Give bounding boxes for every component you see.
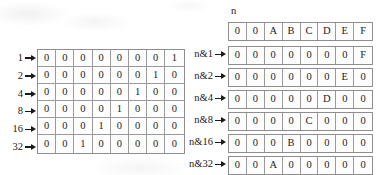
table-cell: 0: [247, 47, 265, 64]
table-cell: 0: [129, 101, 147, 118]
left-row-label-4: 4: [0, 86, 36, 103]
table-cell: D: [318, 91, 336, 108]
table-cell: 0: [229, 157, 247, 174]
table-cell: 0: [336, 157, 354, 174]
table-cell: 0: [265, 135, 283, 152]
table-cell: D: [318, 23, 336, 40]
n-variable-label: n: [231, 6, 236, 17]
table-cell: 0: [229, 69, 247, 86]
table-cell: 0: [147, 118, 165, 135]
table-cell: 0: [336, 135, 354, 152]
table-cell: 0: [354, 157, 372, 174]
table-cell: 0: [229, 47, 247, 64]
table-cell: 0: [265, 47, 283, 64]
result-row-n-and-16: 0 0 0 B 0 0 0 0: [228, 134, 373, 153]
table-cell: 0: [165, 101, 183, 118]
table-cell: 0: [265, 91, 283, 108]
table-cell: 0: [38, 50, 56, 67]
table-cell: 0: [56, 84, 74, 101]
table-cell: F: [354, 23, 372, 40]
table-cell: 1: [147, 67, 165, 84]
table-cell: 0: [247, 157, 265, 174]
table-cell: 0: [247, 69, 265, 86]
n-value-row: 0 0 A B C D E F: [228, 22, 373, 41]
table-cell: 1: [129, 84, 147, 101]
left-row-label-32: 32: [0, 139, 36, 156]
right-row-label-text: n&32: [189, 159, 213, 170]
result-row-n-and-32: 0 0 A 0 0 0 0 0: [228, 156, 373, 175]
table-row: 0 0 0 0 0 0 1 0: [38, 67, 184, 84]
table-cell: 0: [129, 50, 147, 67]
table-cell: 0: [318, 157, 336, 174]
table-cell: 0: [318, 135, 336, 152]
table-cell: 0: [301, 69, 319, 86]
table-cell: 0: [93, 67, 111, 84]
table-cell: 0: [129, 118, 147, 135]
result-row-n-and-8: 0 0 0 0 C 0 0 0: [228, 112, 373, 131]
right-row-label-text: n&4: [194, 93, 213, 104]
table-cell: 0: [74, 101, 92, 118]
table-cell: 0: [229, 113, 247, 130]
table-cell: 0: [165, 84, 183, 101]
table-cell: 0: [301, 135, 319, 152]
left-row-label-8: 8: [0, 103, 36, 120]
table-cell: 0: [38, 135, 56, 152]
table-cell: 1: [74, 135, 92, 152]
right-row-label-text: n&16: [189, 137, 213, 148]
table-cell: 0: [283, 69, 301, 86]
table-cell: F: [354, 47, 372, 64]
table-cell: 0: [74, 50, 92, 67]
table-cell: 0: [56, 67, 74, 84]
right-row-label-text: n&2: [194, 71, 213, 82]
table-cell: 0: [38, 118, 56, 135]
right-row-label-n-and-2: n&2: [186, 68, 226, 85]
table-cell: B: [283, 135, 301, 152]
left-row-label-2: 2: [0, 68, 36, 85]
table-row: 0 0 0 0 0 1 0 0: [38, 84, 184, 101]
table-cell: 0: [283, 157, 301, 174]
table-cell: 0: [74, 118, 92, 135]
table-cell: B: [283, 23, 301, 40]
left-row-label-text: 8: [18, 106, 23, 117]
left-row-label-16: 16: [0, 121, 36, 138]
table-cell: 0: [247, 135, 265, 152]
table-cell: 0: [283, 47, 301, 64]
table-cell: 0: [318, 47, 336, 64]
table-cell: 0: [147, 84, 165, 101]
right-row-label-text: n&1: [194, 49, 213, 60]
right-arrow-icon: [25, 55, 36, 62]
table-cell: 0: [354, 91, 372, 108]
table-cell: 0: [283, 91, 301, 108]
table-cell: 0: [165, 118, 183, 135]
right-arrow-icon: [25, 91, 36, 98]
table-row: 0 0 1 0 0 0 0 0: [38, 135, 184, 152]
table-cell: 0: [229, 135, 247, 152]
right-arrow-icon: [25, 73, 36, 80]
right-row-label-n-and-4: n&4: [186, 90, 226, 107]
table-cell: 0: [318, 69, 336, 86]
table-cell: 0: [283, 113, 301, 130]
left-row-label-text: 16: [13, 124, 24, 135]
table-cell: 0: [354, 135, 372, 152]
right-row-label-n-and-8: n&8: [186, 112, 226, 129]
left-row-label-text: 2: [18, 71, 23, 82]
table-cell: 0: [56, 118, 74, 135]
table-cell: 0: [111, 135, 129, 152]
table-cell: 0: [93, 50, 111, 67]
table-cell: 1: [93, 118, 111, 135]
right-arrow-icon: [25, 144, 36, 151]
right-arrow-icon: [215, 95, 226, 102]
table-cell: 0: [336, 113, 354, 130]
table-cell: 0: [74, 84, 92, 101]
table-cell: 0: [56, 135, 74, 152]
table-cell: 0: [93, 135, 111, 152]
left-row-label-text: 32: [13, 142, 24, 153]
table-cell: 0: [147, 101, 165, 118]
table-row: 0 0 0 0 0 0 0 1: [38, 50, 184, 67]
table-cell: 0: [229, 23, 247, 40]
table-cell: 0: [336, 91, 354, 108]
table-cell: E: [336, 23, 354, 40]
table-cell: 0: [147, 50, 165, 67]
right-arrow-icon: [215, 51, 226, 58]
table-cell: 0: [74, 67, 92, 84]
